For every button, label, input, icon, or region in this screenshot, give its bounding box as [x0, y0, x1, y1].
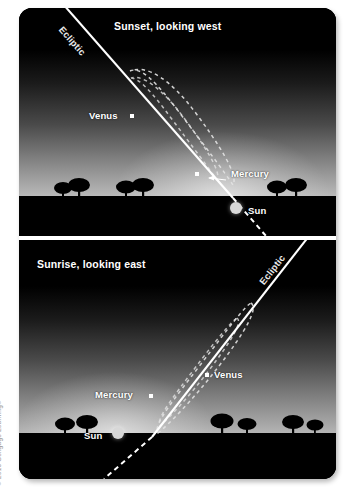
mercury-marker-sunset	[195, 172, 199, 176]
sun-label-sunrise: Sun	[84, 430, 102, 441]
tree	[267, 181, 287, 198]
venus-marker-sunset	[130, 114, 134, 118]
tree	[55, 418, 75, 435]
mercury-marker-sunrise	[149, 394, 153, 398]
venus-label-sunrise: Venus	[214, 369, 243, 380]
ecliptic-line-below-horizon-sunrise	[104, 437, 152, 479]
copyright-notice: © 2016 Cengage Learning®	[0, 400, 2, 486]
sun-marker-sunset	[230, 202, 242, 214]
mercury-pointer-arrow-sunset	[208, 175, 214, 180]
sun-label-sunset: Sun	[248, 205, 266, 216]
panel-sunset: Sunset, looking west Ecliptic Venus Merc…	[19, 8, 336, 236]
panel-title-sunrise: Sunrise, looking east	[37, 258, 146, 270]
tree	[307, 420, 324, 435]
tree	[238, 418, 257, 434]
panel-sunrise: Sunrise, looking east Ecliptic Venus Mer…	[19, 240, 336, 479]
sunrise-sky-graphics	[19, 240, 336, 479]
panel-title-sunset: Sunset, looking west	[114, 20, 221, 32]
venus-label-sunset: Venus	[89, 110, 118, 121]
sun-marker-sunrise	[112, 427, 124, 439]
tree-silhouettes-sunset	[54, 178, 307, 197]
ecliptic-line-sunset	[63, 8, 233, 198]
tree	[285, 178, 307, 197]
venus-marker-sunrise	[205, 373, 209, 377]
tree	[68, 178, 90, 197]
astronomy-figure: Sunset, looking west Ecliptic Venus Merc…	[19, 8, 336, 479]
tree	[211, 414, 234, 435]
tree	[282, 415, 304, 434]
mercury-label-sunrise: Mercury	[95, 389, 133, 400]
mercury-label-sunset: Mercury	[231, 168, 269, 179]
tree	[132, 178, 154, 197]
